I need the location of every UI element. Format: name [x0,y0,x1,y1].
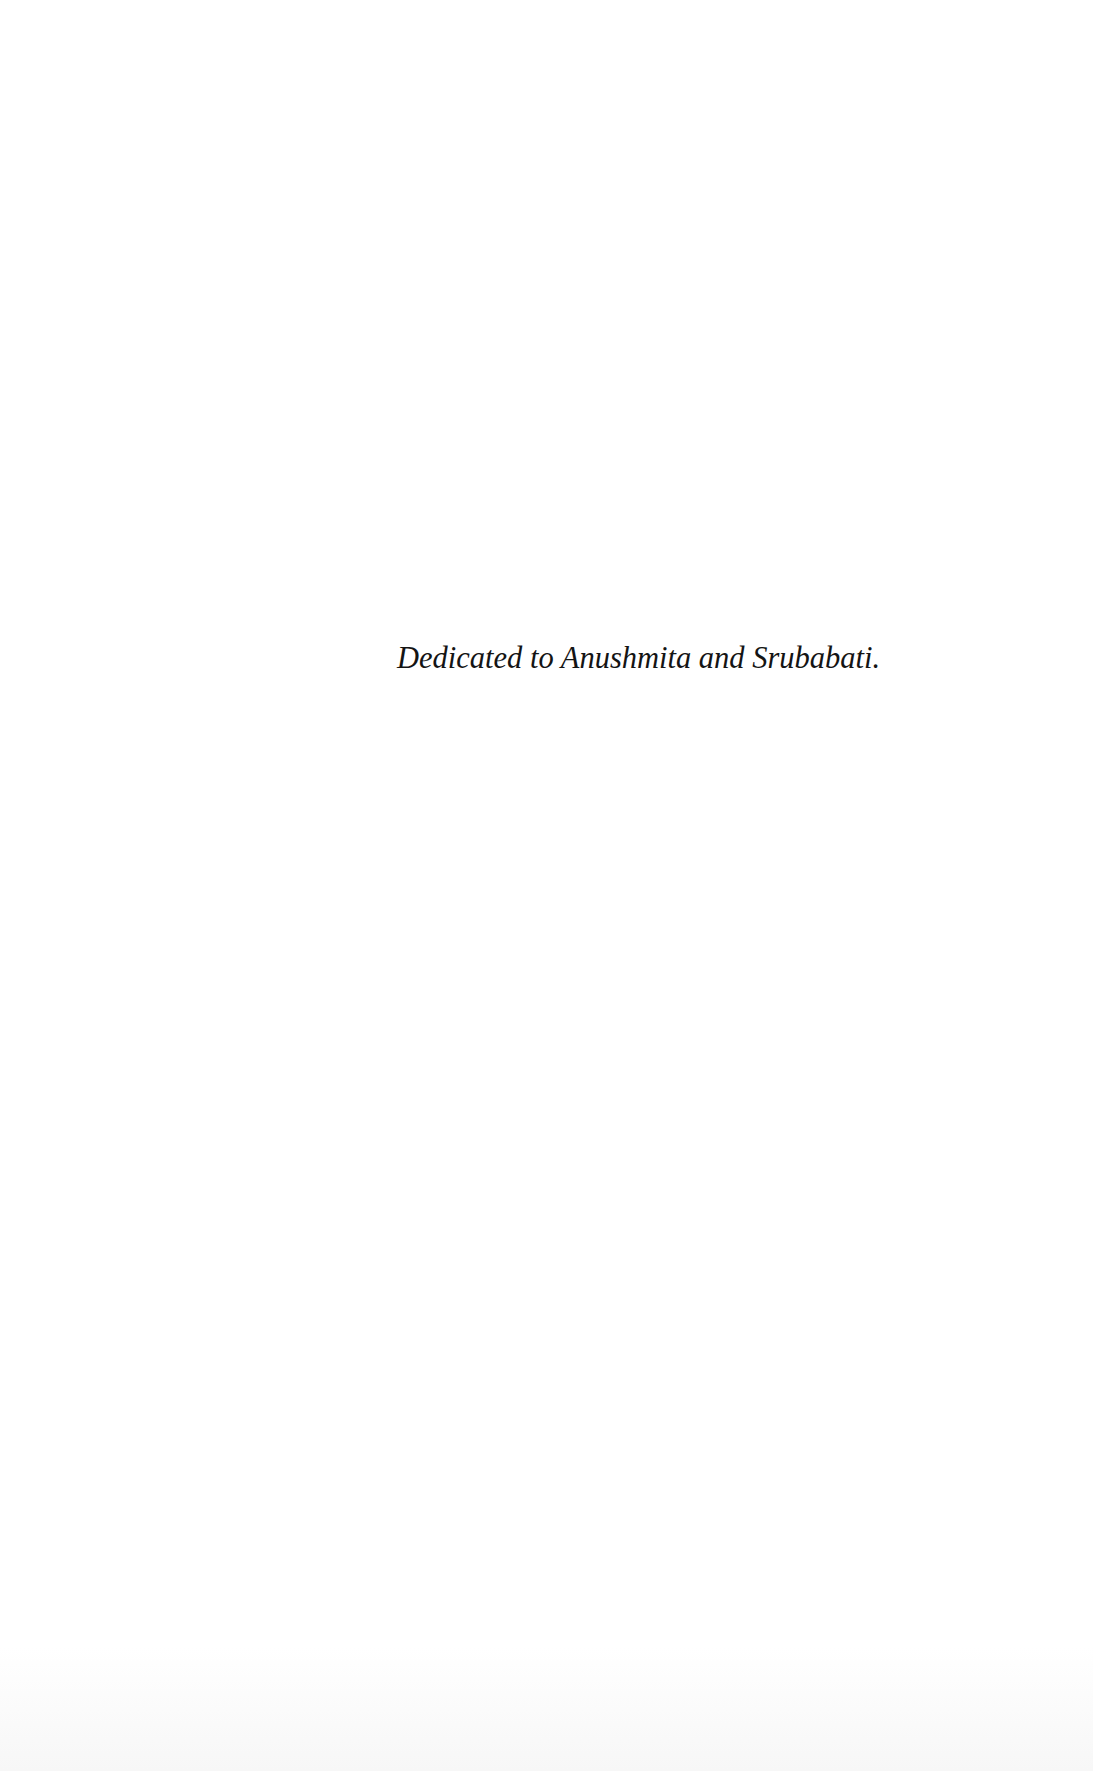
dedication-text: Dedicated to Anushmita and Srubabati. [397,640,880,676]
book-page: Dedicated to Anushmita and Srubabati. [0,0,1093,1771]
